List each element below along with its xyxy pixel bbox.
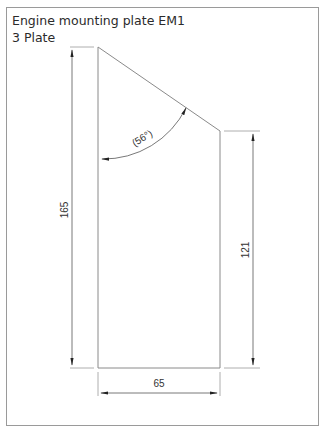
angle-label: (56°) [130, 128, 154, 149]
dimension-121-label: 121 [240, 241, 251, 258]
plate-outline [98, 47, 220, 368]
dimension-165-label: 165 [59, 201, 70, 218]
plate-drawing: 165 121 65 (56°) [0, 0, 321, 432]
dimension-65-label: 65 [153, 378, 165, 389]
